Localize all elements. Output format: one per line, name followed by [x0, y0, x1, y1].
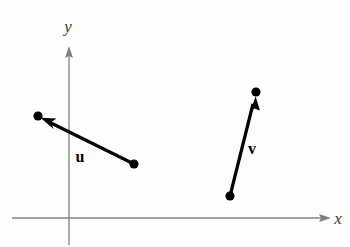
figure-canvas: x y u v: [0, 0, 350, 247]
vector-u-shaft: [49, 122, 134, 164]
vector-v-tail-dot: [225, 191, 234, 200]
vector-v-group: v: [225, 87, 260, 200]
vector-v-label: v: [248, 140, 256, 157]
vector-u-group: u: [33, 111, 138, 168]
x-axis-label: x: [333, 209, 342, 228]
vector-diagram-figure: x y u v: [0, 0, 350, 247]
vector-u-head-dot: [33, 111, 42, 120]
vector-v-head-dot: [251, 87, 260, 96]
vector-u-tail-dot: [129, 159, 138, 168]
vector-u-label: u: [76, 148, 85, 165]
axes-group: [12, 46, 331, 245]
y-axis-label: y: [62, 17, 72, 36]
